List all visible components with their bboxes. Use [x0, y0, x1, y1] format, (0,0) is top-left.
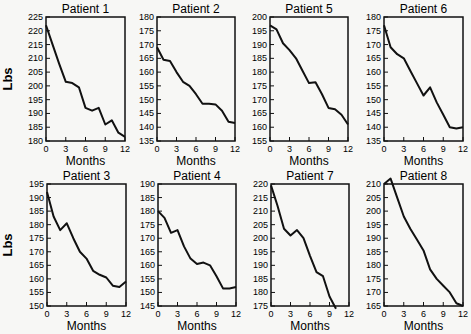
y-tick-label: 195: [252, 26, 267, 36]
y-tick-label: 170: [140, 233, 155, 243]
x-tick-label: 9: [214, 309, 219, 319]
x-tick-label: 6: [193, 144, 198, 154]
y-tick-label: 160: [366, 67, 381, 77]
y-tick-label: 215: [253, 193, 268, 203]
x-tick-label: 9: [441, 144, 446, 154]
x-tick-label: 0: [155, 309, 160, 319]
x-tick-label: 9: [213, 144, 218, 154]
weight-line: [384, 25, 463, 128]
y-tick-label: 185: [29, 206, 44, 216]
plot-frame: [157, 17, 235, 141]
x-tick-label: 12: [343, 144, 353, 154]
y-tick-label: 185: [140, 193, 155, 203]
y-tick-label: 165: [29, 260, 44, 270]
y-tick-label: 180: [366, 260, 381, 270]
x-tick-label: 0: [43, 144, 48, 154]
plot-frame: [270, 17, 348, 141]
y-tick-label: 160: [29, 274, 44, 284]
y-tick-label: 200: [28, 81, 43, 91]
x-tick-label: 3: [64, 309, 69, 319]
y-tick-label: 195: [366, 220, 381, 230]
x-tick-label: 12: [230, 144, 240, 154]
y-tick-label: 150: [140, 287, 155, 297]
x-tick-label: 9: [327, 309, 332, 319]
y-tick-label: 220: [28, 26, 43, 36]
y-tick-label: 205: [28, 67, 43, 77]
y-tick-label: 205: [366, 193, 381, 203]
x-tick-label: 9: [441, 309, 446, 319]
weight-line: [47, 192, 126, 287]
y-tick-label: 165: [366, 53, 381, 63]
y-tick-label: 210: [366, 179, 381, 189]
x-tick-label: 0: [381, 144, 386, 154]
y-tick-label: 175: [140, 220, 155, 230]
panel-patient-3: Patient 31501551601651701751801851901950…: [0, 169, 131, 333]
weight-line: [384, 179, 463, 306]
y-tick-label: 175: [252, 81, 267, 91]
y-tick-label: 150: [29, 301, 44, 311]
panel-title: Patient 4: [173, 169, 221, 183]
y-tick-label: 160: [140, 260, 155, 270]
y-tick-label: 150: [139, 95, 154, 105]
x-tick-label: 12: [458, 309, 468, 319]
y-tick-label: 160: [139, 67, 154, 77]
y-tick-label: 190: [29, 193, 44, 203]
panel-title: Patient 5: [285, 2, 333, 16]
y-tick-label: 220: [253, 179, 268, 189]
y-tick-label: 155: [252, 136, 267, 146]
y-tick-label: 180: [140, 206, 155, 216]
y-tick-label: 215: [28, 40, 43, 50]
y-tick-label: 185: [28, 122, 43, 132]
x-tick-label: 3: [401, 309, 406, 319]
y-tick-label: 165: [140, 247, 155, 257]
y-tick-label: 195: [29, 179, 44, 189]
x-axis-label: Months: [404, 154, 443, 168]
y-tick-label: 165: [139, 53, 154, 63]
y-tick-label: 195: [28, 95, 43, 105]
panel-patient-6: Patient 61351401451501551601651701751800…: [366, 2, 468, 168]
x-tick-label: 6: [307, 309, 312, 319]
weight-line: [271, 185, 336, 308]
weight-line: [157, 47, 235, 123]
plot-frame: [271, 184, 349, 306]
x-tick-label: 9: [104, 309, 109, 319]
y-tick-label: 150: [366, 95, 381, 105]
y-tick-label: 135: [139, 136, 154, 146]
x-axis-label: Months: [404, 319, 443, 333]
y-tick-label: 170: [139, 40, 154, 50]
x-tick-label: 12: [121, 309, 131, 319]
y-tick-label: 165: [366, 301, 381, 311]
y-tick-label: 225: [28, 12, 43, 22]
y-tick-label: 185: [252, 53, 267, 63]
x-tick-label: 12: [231, 309, 241, 319]
y-tick-label: 175: [139, 26, 154, 36]
y-tick-label: 195: [253, 247, 268, 257]
x-tick-label: 3: [175, 309, 180, 319]
y-tick-label: 205: [253, 220, 268, 230]
y-tick-label: 170: [366, 287, 381, 297]
panel-patient-1: Patient 11801851901952002052102152202250…: [0, 2, 130, 168]
y-tick-label: 210: [28, 53, 43, 63]
y-tick-label: 190: [366, 233, 381, 243]
x-tick-label: 3: [63, 144, 68, 154]
x-tick-label: 6: [84, 309, 89, 319]
y-tick-label: 145: [140, 301, 155, 311]
x-tick-label: 6: [421, 309, 426, 319]
y-tick-label: 200: [253, 233, 268, 243]
y-tick-label: 155: [29, 287, 44, 297]
y-tick-label: 185: [253, 274, 268, 284]
x-tick-label: 3: [401, 144, 406, 154]
y-tick-label: 140: [366, 122, 381, 132]
x-tick-label: 0: [268, 309, 273, 319]
y-tick-label: 185: [366, 247, 381, 257]
x-axis-label: Months: [177, 319, 216, 333]
x-tick-label: 0: [267, 144, 272, 154]
x-tick-label: 0: [381, 309, 386, 319]
y-tick-label: 180: [29, 220, 44, 230]
y-tick-label: 165: [252, 108, 267, 118]
y-tick-label: 210: [253, 206, 268, 216]
y-tick-label: 170: [252, 95, 267, 105]
y-axis-label: Lbs: [0, 67, 15, 90]
panel-title: Patient 1: [62, 2, 110, 16]
y-tick-label: 200: [366, 206, 381, 216]
